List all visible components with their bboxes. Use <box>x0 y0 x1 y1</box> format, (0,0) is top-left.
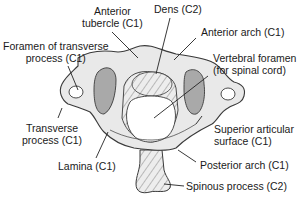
label-transverse-process: Transverse process (C1) <box>22 123 82 146</box>
label-spinous-process: Spinous process (C2) <box>186 181 287 193</box>
label-anterior-tubercle: Anterior tubercle (C1) <box>82 6 143 29</box>
label-line: tubercle (C1) <box>82 18 143 30</box>
label-line: Lamina (C1) <box>58 161 116 173</box>
label-foramen-transverse: Foramen of transverse process (C1) <box>3 41 109 64</box>
label-line: Transverse <box>22 123 82 135</box>
vertebral-foramen-shape <box>127 96 176 142</box>
label-lamina: Lamina (C1) <box>58 161 116 173</box>
atlas-diagram: Anterior tubercle (C1) Dens (C2) Anterio… <box>0 0 302 204</box>
dens-tip <box>132 72 172 96</box>
label-dens: Dens (C2) <box>154 4 202 16</box>
label-superior-articular: Superior articular surface (C1) <box>214 124 294 147</box>
label-line: Vertebral foramen <box>213 53 296 65</box>
label-line: Spinous process (C2) <box>186 181 287 193</box>
label-line: process (C1) <box>3 53 109 65</box>
label-line: Superior articular <box>214 124 294 136</box>
label-line: (for spinal cord) <box>213 65 296 77</box>
transverse-foramen-right <box>221 88 235 100</box>
label-line: process (C1) <box>22 135 82 147</box>
label-line: Anterior <box>82 6 143 18</box>
transverse-foramen-left <box>69 86 83 98</box>
label-line: Posterior arch (C1) <box>200 160 289 172</box>
label-line: surface (C1) <box>214 136 294 148</box>
label-line: Anterior arch (C1) <box>201 27 284 39</box>
label-vertebral-foramen: Vertebral foramen (for spinal cord) <box>213 53 296 76</box>
spinous-process-shape <box>136 150 170 193</box>
label-line: Dens (C2) <box>154 4 202 16</box>
label-posterior-arch: Posterior arch (C1) <box>200 160 289 172</box>
label-anterior-arch: Anterior arch (C1) <box>201 27 284 39</box>
label-line: Foramen of transverse <box>3 41 109 53</box>
